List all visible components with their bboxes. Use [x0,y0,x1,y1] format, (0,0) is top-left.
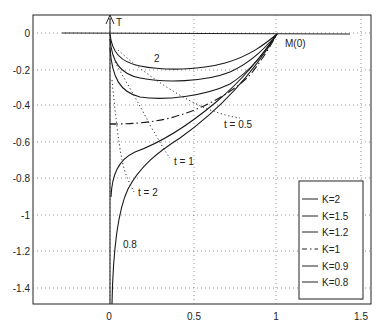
y-tick-label: -0.6 [13,137,31,148]
annotation-k2: 2 [154,53,160,64]
chart: 0 -0.2 -0.4 -0.6 -0.8 -1 -1.2 -1.4 0 0.5… [0,0,387,333]
y-tick-label: -0.2 [13,65,31,76]
x-tick-label: 1 [273,311,279,322]
y-tick-label: -1.2 [13,246,31,257]
annotation-t1: t = 1 [174,156,194,167]
y-tick-label: -1 [21,210,30,221]
x-tick-label: 0.5 [187,311,201,322]
annotation-t05: t = 0.5 [224,119,253,130]
legend-label: K=1 [322,244,341,255]
legend-label: K=1.5 [322,211,349,222]
annotation-m0: M(0) [285,38,306,49]
y-tick-labels: 0 -0.2 -0.4 -0.6 -0.8 -1 -1.2 -1.4 [13,28,31,294]
legend-label: K=2 [322,194,341,205]
t-axis-label: T [116,17,122,28]
y-tick-label: -0.8 [13,173,31,184]
x-tick-labels: 0 0.5 1 1.5 [106,311,368,322]
legend-label: K=0.9 [322,261,349,272]
annotation-k08: 0.8 [123,239,137,250]
legend-label: K=0.8 [322,277,349,288]
y-tick-label: -0.4 [13,100,31,111]
y-tick-label: 0 [24,28,30,39]
x-tick-label: 0 [106,311,112,322]
legend: K=2 K=1.5 K=1.2 K=1 K=0.9 K=0.8 [299,181,363,299]
annotation-t2: t = 2 [138,187,158,198]
x-tick-label: 1.5 [354,311,368,322]
legend-label: K=1.2 [322,227,349,238]
y-tick-label: -1.4 [13,283,31,294]
